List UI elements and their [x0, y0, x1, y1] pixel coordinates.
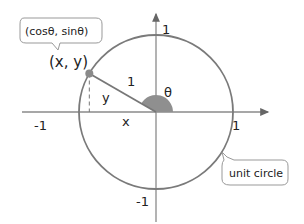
point-callout: (cosθ, sinθ)	[20, 18, 102, 50]
y-tick-1: 1	[162, 22, 170, 37]
x-label: x	[122, 114, 130, 129]
radius-label: 1	[127, 74, 135, 89]
x-tick-neg1: -1	[34, 118, 47, 133]
point-label: (x, y)	[49, 53, 88, 71]
unit-circle-diagram: -1 1 1 -1 θ 1 x y (x, y) (cosθ, sinθ) un…	[0, 0, 304, 224]
x-tick-1: 1	[232, 118, 240, 133]
theta-label: θ	[164, 85, 172, 100]
circle-callout: unit circle	[222, 152, 288, 185]
radius-line	[89, 74, 156, 113]
point-callout-text: (cosθ, sinθ)	[25, 25, 88, 38]
y-label: y	[102, 90, 110, 105]
y-tick-neg1: -1	[136, 194, 149, 209]
circle-callout-text: unit circle	[229, 167, 283, 180]
